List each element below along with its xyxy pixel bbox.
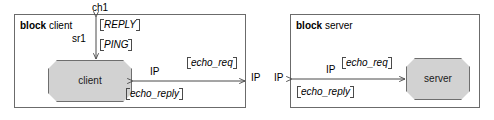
connector-lines-layer <box>0 0 494 120</box>
block-diagram-canvas: block client client ch1 sr1 REPLY PING I… <box>0 0 494 120</box>
